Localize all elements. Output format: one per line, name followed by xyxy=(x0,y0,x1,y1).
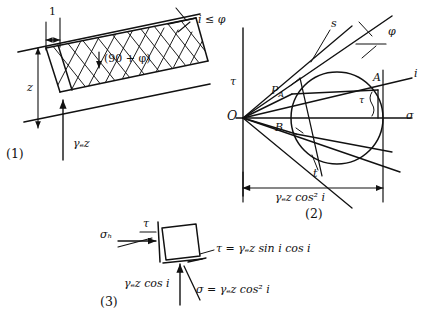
panel2-tau-bracket-label: τ xyxy=(359,95,364,105)
panel1-caption: (1) xyxy=(6,148,24,161)
panel2-slope-line-label: i xyxy=(414,68,418,79)
panel2-point-a-label: A xyxy=(373,72,381,83)
panel2-chord-b-lower xyxy=(296,134,392,152)
panel3-tau-label: τ xyxy=(143,218,149,229)
panel3-tau-leader xyxy=(200,250,214,254)
panel2-point-b-label: B xyxy=(275,122,283,133)
panel2-friction-angle-label: φ xyxy=(388,26,396,37)
panel2-tau-brace xyxy=(370,92,374,116)
panel2-pole-subscript: A xyxy=(278,90,283,99)
panel2-ray-to-b xyxy=(243,118,296,134)
panel3-vertical-stress-label: γₑz cos i xyxy=(124,278,170,289)
panel1-weight-label: γₑz xyxy=(73,138,90,149)
panel3-left-wall xyxy=(158,222,160,262)
panel2-chord-pole-a xyxy=(292,90,378,94)
panel2-strength-line-label: s xyxy=(331,18,337,29)
panel2-phi-envelope xyxy=(243,16,392,118)
panel2-lower-ray xyxy=(243,118,400,172)
figure-drawing xyxy=(0,0,428,322)
panel3-sigma-h-arrow xyxy=(118,238,156,247)
panel1-width-label: 1 xyxy=(49,6,56,17)
panel2-pole-label: PA xyxy=(271,85,284,99)
panel2-caption: (2) xyxy=(305,208,323,221)
panel3-shear-equation: τ = γₑz sin i cos i xyxy=(216,243,311,254)
panel1-slope-angle-label: i ≤ φ xyxy=(198,14,225,25)
panel2-slope-line-i xyxy=(243,78,412,118)
panel2-dimension-label: γₑz cos² i xyxy=(275,192,325,203)
panel3-sigma-h-label: σₕ xyxy=(100,229,112,240)
panel1-hatch-angle-label: (90 + φ) xyxy=(104,53,151,64)
panel2-leader-lines xyxy=(290,30,330,170)
panel2-tau-axis-label: τ xyxy=(230,76,236,87)
panel2-conjugate-line-label: t xyxy=(313,168,317,179)
panel3-normal-equation: σ = γₑz cos² i xyxy=(196,284,270,295)
panel2-sigma-axis-label: σ xyxy=(406,110,414,121)
figure-container: 1 z γₑz (90 + φ) i ≤ φ (1) O τ σ PA B A … xyxy=(0,0,428,322)
panel1-base-plane xyxy=(24,84,210,122)
panel2-origin-label: O xyxy=(227,110,237,123)
panel3-element-square xyxy=(162,224,200,260)
panel1-depth-label: z xyxy=(27,82,33,93)
panel3-caption: (3) xyxy=(100,296,118,309)
